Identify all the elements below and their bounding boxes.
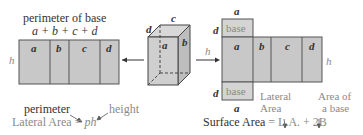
face-label-a: a <box>31 42 37 54</box>
base-bottom-label: base <box>226 85 246 97</box>
prism-label-c: c <box>171 12 176 24</box>
right-bottom-a: a <box>234 102 240 114</box>
base-area-note-1: Area of <box>318 90 351 102</box>
surface-area-formula: Surface Area = L.A. + 2B <box>203 115 327 130</box>
perimeter-formula: a + b + c + d <box>32 24 98 39</box>
height-note: height <box>109 102 139 117</box>
prism-label-b: b <box>182 36 188 48</box>
lateral-note-1: Lateral <box>260 90 291 102</box>
right-face-c: c <box>285 40 290 52</box>
right-face-a: a <box>234 40 240 52</box>
arrow-right-icon <box>196 58 220 63</box>
right-top-a: a <box>234 5 240 17</box>
lateral-area-formula: Lateral Area = ph <box>12 115 96 130</box>
base-top-label: base <box>226 22 246 34</box>
face-label-c: c <box>82 42 87 54</box>
prism-label-a: a <box>162 39 168 51</box>
right-h-right: h <box>326 55 332 67</box>
right-d-bottom: d <box>213 87 219 99</box>
base-area-note-2: a base <box>322 102 349 114</box>
lateral-note-2: Area <box>260 102 281 114</box>
right-d-top: d <box>213 24 219 36</box>
prism-3d <box>148 25 190 85</box>
right-h-left: h <box>205 45 211 57</box>
prism-label-d: d <box>146 23 152 35</box>
height-label: h <box>9 54 15 66</box>
arrow-left-icon <box>122 58 144 63</box>
right-face-d: d <box>309 40 315 52</box>
right-face-b: b <box>259 40 265 52</box>
face-label-b: b <box>56 42 62 54</box>
face-label-d: d <box>106 42 112 54</box>
